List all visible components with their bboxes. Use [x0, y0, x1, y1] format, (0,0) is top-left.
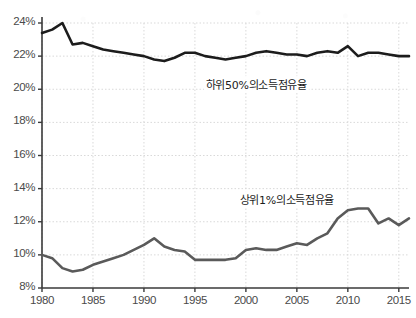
x-axis-label: 2010 [326, 294, 370, 306]
y-axis-label: 16% [13, 148, 35, 160]
x-axis-label: 1995 [173, 294, 217, 306]
chart-plot-area [0, 0, 416, 318]
x-axis-label: 1985 [71, 294, 115, 306]
y-axis-label: 8% [19, 280, 35, 292]
y-axis-label: 20% [13, 81, 35, 93]
y-axis-label: 24% [13, 15, 35, 27]
x-axis-label: 2000 [224, 294, 268, 306]
y-axis-label: 22% [13, 48, 35, 60]
x-axis-label: 1980 [20, 294, 64, 306]
y-axis-label: 10% [13, 247, 35, 259]
series-annotation-bottom50: 하위50%의소득점유율 [204, 76, 309, 92]
series-line-top1 [42, 209, 409, 272]
y-axis-label: 14% [13, 181, 35, 193]
x-axis-label: 2015 [377, 294, 416, 306]
series-annotation-top1: 상위1%의소득점유율 [238, 191, 336, 207]
y-axis-label: 12% [13, 214, 35, 226]
y-axis-label: 18% [13, 114, 35, 126]
income-share-chart: 24%22%20%18%16%14%12%10%8%19801985199019… [0, 0, 416, 318]
x-axis-label: 1990 [122, 294, 166, 306]
series-line-bottom50 [42, 23, 409, 61]
x-axis-label: 2005 [275, 294, 319, 306]
